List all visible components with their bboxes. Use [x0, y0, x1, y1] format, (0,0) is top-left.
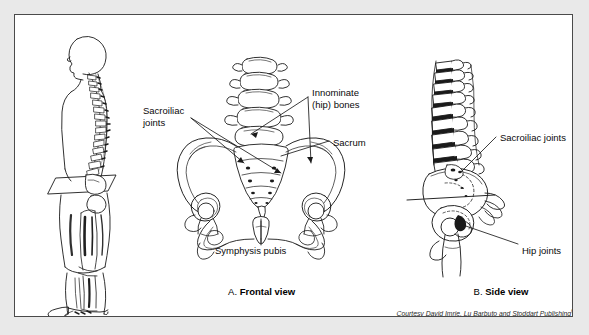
label-sacroiliac-joints-side: Sacroiliac joints [500, 132, 566, 144]
pelvis-side-view-illustration [15, 15, 572, 316]
caption-side-title: Side view [485, 286, 528, 297]
caption-frontal-view: A. Frontal view [218, 275, 295, 308]
caption-frontal-title: Frontal view [240, 286, 295, 297]
label-symphysis-pubis: Symphysis pubis [215, 245, 286, 257]
label-hip-joints: Hip joints [522, 245, 561, 257]
label-innominate-hip-bones: Innominate (hip) bones [312, 87, 360, 110]
credit-text: Courtesy David Imrie, Lu Barbuto and Sto… [397, 310, 572, 317]
caption-side-prefix: B. [474, 286, 483, 297]
label-sacroiliac-joints-frontal: Sacroiliac joints [143, 105, 184, 128]
label-sacrum: Sacrum [333, 137, 366, 149]
figure-panel: Sacroiliac joints Innominate (hip) bones… [14, 14, 573, 317]
caption-frontal-prefix: A. [228, 286, 237, 297]
credit-superscript: 60 [571, 309, 573, 314]
credit-line: Courtesy David Imrie, Lu Barbuto and Sto… [389, 302, 573, 317]
